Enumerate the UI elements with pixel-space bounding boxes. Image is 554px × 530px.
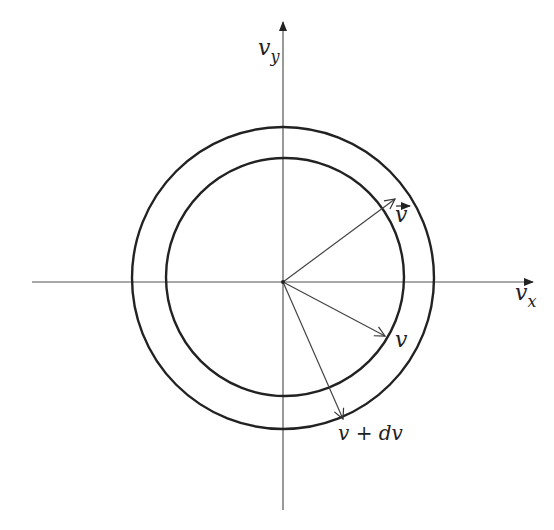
inner-radius-vector xyxy=(283,282,385,336)
origin-point xyxy=(281,280,285,284)
outer-radius-vector xyxy=(283,282,343,419)
outer-radius-label: v + dv xyxy=(338,421,404,445)
vy-axis-label: vy xyxy=(258,35,280,66)
velocity-shell-diagram: vy vx v v v + dv xyxy=(0,0,554,530)
velocity-vector-label: v xyxy=(395,202,410,227)
velocity-vector xyxy=(283,199,395,282)
vx-axis-label: vx xyxy=(515,280,536,311)
inner-radius-label: v xyxy=(395,327,408,352)
inner-circle xyxy=(166,158,404,396)
